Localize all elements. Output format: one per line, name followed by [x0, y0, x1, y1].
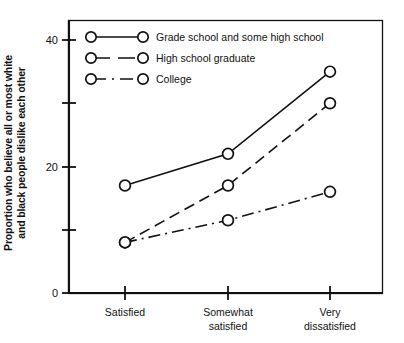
data-point-college-0 [120, 237, 131, 248]
y-tick-label-40: 40 [46, 34, 58, 46]
legend-label-college: College [156, 73, 192, 85]
data-point-high-school-graduate-1 [223, 180, 234, 191]
legend-marker-right-high-school-graduate [138, 53, 148, 63]
y-tick-label-20: 20 [46, 161, 58, 173]
legend-marker-left-high-school-graduate [86, 53, 96, 63]
legend-marker-right-college [138, 74, 148, 84]
legend-marker-right-grade-school [138, 32, 148, 42]
x-category-label-somewhat-line2: satisfied [209, 320, 248, 332]
data-point-grade-school-0 [120, 180, 131, 191]
legend-label-high-school-graduate: High school graduate [156, 52, 255, 64]
legend: Grade school and some high school High s… [86, 31, 324, 85]
line-chart-plot: 0 20 40 Satisfied Somewhat satisfied Ver… [0, 0, 404, 343]
data-point-college-2 [325, 186, 336, 197]
chart-figure: Proportion who believe all or most white… [0, 0, 404, 343]
legend-label-grade-school: Grade school and some high school [156, 31, 324, 43]
data-point-grade-school-1 [223, 148, 234, 159]
y-tick-label-0: 0 [52, 287, 58, 299]
legend-marker-left-grade-school [86, 32, 96, 42]
x-category-label-somewhat-line1: Somewhat [203, 306, 253, 318]
x-category-label-satisfied: Satisfied [105, 306, 145, 318]
data-point-grade-school-2 [325, 66, 336, 77]
data-point-college-1 [223, 215, 234, 226]
x-category-label-very-line1: Very [319, 306, 341, 318]
series-group [120, 66, 336, 248]
x-category-label-very-line2: dissatisfied [304, 320, 356, 332]
data-point-high-school-graduate-2 [325, 98, 336, 109]
legend-marker-left-college [86, 74, 96, 84]
